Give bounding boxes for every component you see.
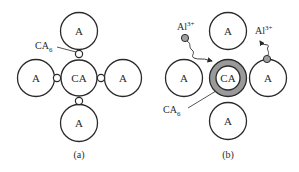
caption-b: (b)	[222, 149, 234, 161]
particle-label: A	[224, 115, 232, 127]
particle-label: A	[180, 72, 188, 84]
particle-b-right: A	[250, 60, 287, 97]
particle-label: A	[75, 117, 83, 129]
al-ion-left	[181, 34, 188, 41]
particle-a-top: A	[61, 13, 98, 50]
al-ion-label-right: Al3+	[255, 24, 273, 36]
particle-label: CA	[220, 72, 235, 84]
particle-a-left: A	[18, 60, 55, 97]
ca6-label: CA6	[35, 40, 53, 54]
particle-a-bottom: A	[61, 105, 98, 142]
ca6-particle-top	[75, 50, 82, 57]
particle-b-left: A	[166, 60, 203, 97]
al-ion-label-left: Al3+	[177, 20, 195, 32]
particle-ca-center: CA	[61, 60, 97, 96]
particle-label: A	[75, 25, 83, 37]
diffusion-diagram: A A A A CA CA6 (a) A	[0, 0, 299, 172]
ca6-particle-bottom	[75, 97, 82, 104]
ca6-particle-left	[53, 74, 60, 81]
panel-a: A A A A CA CA6 (a)	[18, 13, 142, 162]
particle-label: A	[119, 72, 127, 84]
ca6-label: CA6	[163, 104, 181, 118]
diagram-canvas: A A A A CA CA6 (a) A	[0, 0, 299, 172]
particle-label: CA	[71, 72, 86, 84]
diffusion-path-left	[187, 41, 212, 61]
diffusion-path-right	[260, 41, 269, 55]
particle-b-top: A	[210, 13, 247, 50]
particle-b-bottom: A	[210, 103, 247, 140]
caption-a: (a)	[73, 149, 84, 161]
ca6-particle-right	[97, 74, 104, 81]
particle-a-right: A	[105, 60, 142, 97]
particle-label: A	[224, 25, 232, 37]
particle-label: A	[264, 72, 272, 84]
particle-ca-with-ca6-ring: CA	[210, 60, 247, 97]
panel-b: A A A A CA Al3+ Al3+ CA6 (b)	[163, 13, 287, 162]
particle-label: A	[32, 72, 40, 84]
al-ion-right	[263, 55, 270, 62]
